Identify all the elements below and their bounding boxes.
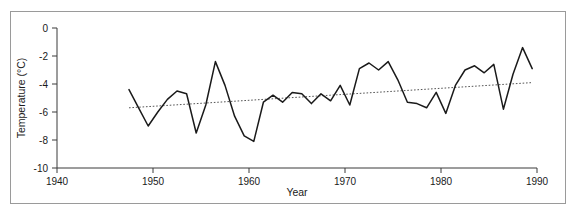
- temperature-line-chart: 0 -2 -4 -6 -8 -10 1940 1950 1960 1970 19…: [11, 12, 565, 203]
- x-tick-marks: [57, 168, 537, 173]
- x-axis-title: Year: [286, 186, 308, 198]
- y-tick-marks: [52, 28, 57, 168]
- x-tick-label-1970: 1970: [334, 176, 357, 187]
- x-tick-label-1960: 1960: [238, 176, 261, 187]
- temperature-data-line: [129, 48, 532, 142]
- y-tick-label-1: -2: [39, 51, 48, 62]
- x-tick-label-1990: 1990: [526, 176, 549, 187]
- x-tick-label-1950: 1950: [142, 176, 165, 187]
- figure-container: 0 -2 -4 -6 -8 -10 1940 1950 1960 1970 19…: [0, 0, 576, 215]
- y-tick-label-3: -6: [39, 107, 48, 118]
- y-tick-label-5: -10: [34, 163, 49, 174]
- y-tick-label-0: 0: [42, 23, 48, 34]
- y-tick-label-4: -8: [39, 135, 48, 146]
- y-tick-label-2: -4: [39, 79, 48, 90]
- x-tick-label-1980: 1980: [430, 176, 453, 187]
- y-axis-title: Temperature (°C): [15, 58, 27, 139]
- chart-frame: 0 -2 -4 -6 -8 -10 1940 1950 1960 1970 19…: [10, 11, 566, 204]
- x-tick-label-1940: 1940: [46, 176, 69, 187]
